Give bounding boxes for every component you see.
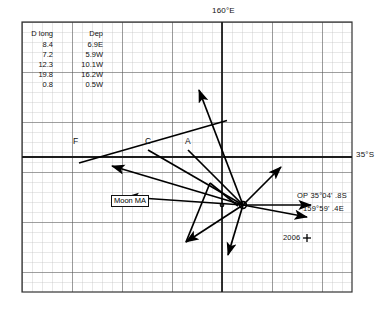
axis-label-latitude: 35°S: [356, 150, 374, 159]
year-marker-label: 2006: [283, 233, 301, 242]
cell-dep: 0.5W: [53, 81, 103, 91]
fix-longitude-label: 159°59' .4E: [303, 204, 344, 213]
moon-ma-label: Moon MA: [111, 195, 149, 207]
fix-latitude-label: OP 35°04' .8S: [297, 191, 347, 200]
point-label-a: A: [185, 136, 191, 146]
table-row: 0.8 0.5W: [22, 81, 103, 91]
plot-canvas: D long Dep 8.4 6.9E 7.2 5.9W 12.3 10.1W: [0, 0, 391, 315]
point-label-f: F: [73, 136, 78, 146]
axis-label-longitude: 160°E: [212, 6, 235, 15]
point-label-c: C: [145, 136, 151, 146]
cell-dlong: 0.8: [22, 81, 53, 91]
dlong-dep-table: D long Dep 8.4 6.9E 7.2 5.9W 12.3 10.1W: [22, 30, 103, 90]
